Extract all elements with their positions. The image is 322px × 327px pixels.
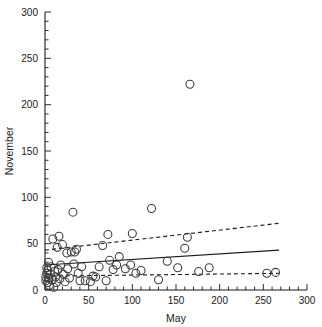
x-tick-label: 150 [168, 295, 185, 306]
y-tick-label: 0 [32, 285, 38, 296]
y-tick-label: 50 [27, 238, 39, 249]
data-point [183, 233, 191, 241]
data-point [272, 268, 280, 276]
lower-confidence-band [45, 273, 279, 276]
y-tick-label: 150 [21, 146, 38, 157]
data-point [92, 273, 100, 281]
y-tick-label: 300 [21, 7, 38, 18]
data-point [69, 208, 77, 216]
data-point [78, 263, 86, 271]
x-tick-label: 300 [299, 295, 316, 306]
data-point [99, 242, 107, 250]
y-tick-label: 100 [21, 192, 38, 203]
plot-canvas: 050100150200250300050100150200250300MayN… [0, 0, 322, 327]
data-point [155, 276, 163, 284]
data-point [95, 263, 103, 271]
data-point [102, 277, 110, 285]
data-point [104, 230, 112, 238]
y-tick-label: 200 [21, 99, 38, 110]
x-tick-label: 200 [211, 295, 228, 306]
x-tick-label: 100 [124, 295, 141, 306]
x-tick-label: 250 [255, 295, 272, 306]
data-point [186, 80, 194, 88]
data-point [128, 229, 136, 237]
y-tick-label: 250 [21, 53, 38, 64]
scatter-plot-figure: 050100150200250300050100150200250300MayN… [0, 0, 322, 327]
data-point [181, 244, 189, 252]
x-tick-label: 0 [42, 295, 48, 306]
data-point [174, 264, 182, 272]
y-axis-title: November [3, 126, 15, 175]
x-tick-label: 50 [83, 295, 95, 306]
data-point [70, 260, 78, 268]
upper-confidence-band [45, 223, 279, 250]
data-point [115, 253, 123, 261]
data-point [205, 264, 213, 272]
axes [45, 12, 307, 290]
data-point [163, 257, 171, 265]
data-points [42, 80, 280, 291]
x-axis-title: May [166, 312, 187, 324]
data-point [148, 204, 156, 212]
data-point [195, 267, 203, 275]
